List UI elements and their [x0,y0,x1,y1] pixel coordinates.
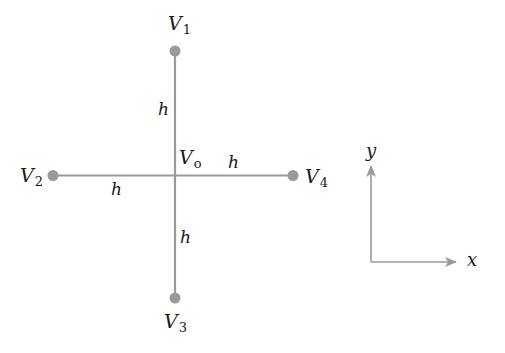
node-v4-dot [288,170,299,181]
label-center-vo: Vo [179,148,202,170]
y-axis-label: y [366,142,376,160]
spacing-label-top: h [158,101,169,118]
spacing-label-left: h [111,181,122,198]
node-v3-dot [170,293,181,304]
label-v1: V1 [168,14,191,36]
diagram-graphics [0,0,505,353]
node-v1-dot [170,46,181,57]
spacing-label-bottom: h [180,229,191,246]
x-axis-label: x [467,251,477,269]
label-v3: V3 [164,312,187,334]
stencil-diagram: V1 V2 V3 V4 Vo h h h h y x [0,0,505,353]
label-v2: V2 [20,166,43,188]
spacing-label-right: h [228,154,239,171]
label-v4: V4 [305,167,328,189]
node-v2-dot [48,170,59,181]
